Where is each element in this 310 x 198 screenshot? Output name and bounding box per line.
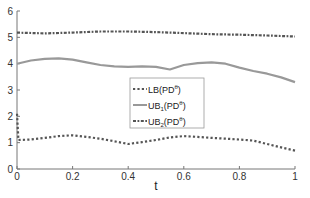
y-tick-label: 6: [7, 6, 13, 17]
x-tick-label: 0.8: [232, 171, 246, 182]
legend: LB(PDθ)UB1(PDθ)UB2(PDθ): [130, 78, 204, 128]
line-chart: 0123456 00.20.40.60.81 t LB(PDθ)UB1(PDθ)…: [0, 0, 310, 198]
y-tick-label: 5: [7, 32, 13, 43]
y-tick-label: 1: [7, 137, 13, 148]
x-tick-label: 0.2: [66, 171, 80, 182]
x-tick-label: 1: [292, 171, 298, 182]
x-axis-label: t: [154, 179, 158, 193]
y-tick-label: 0: [7, 164, 13, 175]
x-tick-label: 0.6: [177, 171, 191, 182]
y-tick-label: 2: [7, 111, 13, 122]
series-line-3: [17, 32, 295, 37]
y-ticks: 0123456: [7, 6, 20, 175]
y-tick-label: 4: [7, 58, 13, 69]
x-tick-label: 0: [14, 171, 20, 182]
y-tick-label: 3: [7, 85, 13, 96]
x-tick-label: 0.4: [121, 171, 135, 182]
